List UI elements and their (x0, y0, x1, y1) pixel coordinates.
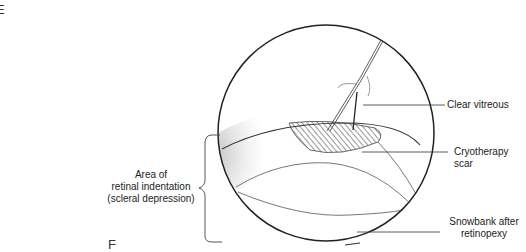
label-snowbank-line1: Snowbank after (444, 216, 524, 228)
label-snowbank: Snowbank after retinopexy (444, 216, 524, 240)
fundus-diagram (0, 0, 526, 252)
label-indentation-line2: retinal indentation (104, 181, 198, 193)
label-snowbank-line2: retinopexy (444, 228, 524, 240)
label-indentation-line1: Area of (104, 169, 198, 181)
label-indentation-line3: (scleral depression) (104, 193, 198, 205)
label-cryotherapy-scar: Cryotherapy scar (454, 146, 526, 170)
indentation-brace (199, 135, 222, 242)
label-retinal-indentation: Area of retinal indentation (scleral dep… (104, 169, 198, 205)
label-clear-vitreous: Clear vitreous (447, 99, 509, 111)
